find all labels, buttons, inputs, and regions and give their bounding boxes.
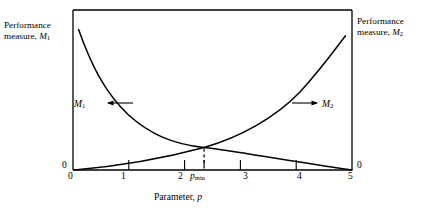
y-axis-label-left-sub: 1 <box>47 34 50 41</box>
y-axis-label-right: Performance measure, M2 <box>357 16 404 39</box>
x-tick-label-3: 3 <box>243 170 248 181</box>
x-axis-title: Parameter, p <box>154 191 202 202</box>
x-tick-label-2: 2 <box>178 170 183 181</box>
x-tick-label-5: 5 <box>348 170 353 181</box>
y-axis-label-left: Performance measure, M1 <box>4 20 51 43</box>
x-tick-label-0: 0 <box>68 170 73 181</box>
y-axis-label-right-line2-prefix: measure, <box>357 27 392 37</box>
x-tick-marks <box>129 160 296 170</box>
y-axis-label-right-symbol: M <box>392 27 400 37</box>
annotation-m1: M1 <box>74 98 85 111</box>
annotation-m2: M2 <box>322 98 333 111</box>
annotation-m2-symbol: M <box>322 98 330 109</box>
y-axis-label-left-line1: Performance <box>4 20 51 30</box>
m1-arrow <box>107 100 133 105</box>
m2-arrow <box>292 100 318 105</box>
y-axis-label-right-sub: 2 <box>400 30 403 37</box>
plot-frame <box>73 10 352 170</box>
annotation-m1-sub: 1 <box>82 102 85 109</box>
annotation-m2-sub: 2 <box>330 102 333 109</box>
curve-m1 <box>79 30 352 170</box>
y-tick-label-0-right: 0 <box>357 159 362 170</box>
y-axis-label-right-line1: Performance <box>357 16 404 26</box>
x-tick-label-pmin: pmin <box>190 170 205 183</box>
pmin-subscript: min <box>195 174 205 181</box>
annotation-m1-symbol: M <box>74 98 82 109</box>
x-axis-title-prefix: Parameter, <box>154 191 197 202</box>
y-axis-label-left-symbol: M <box>39 31 47 41</box>
x-tick-label-1: 1 <box>121 170 126 181</box>
figure-container: Performance measure, M1 Performance meas… <box>0 0 426 212</box>
y-tick-label-0-left: 0 <box>62 159 67 170</box>
x-tick-label-4: 4 <box>297 170 302 181</box>
x-axis-title-symbol: p <box>197 191 202 202</box>
y-axis-label-left-line2-prefix: measure, <box>4 31 39 41</box>
